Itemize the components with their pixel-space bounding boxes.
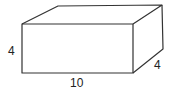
rectangular-prism (0, 0, 171, 94)
front-face (22, 24, 133, 73)
height-label: 4 (8, 45, 15, 57)
depth-label: 4 (154, 59, 161, 71)
length-label: 10 (70, 77, 83, 89)
top-face (22, 5, 162, 24)
